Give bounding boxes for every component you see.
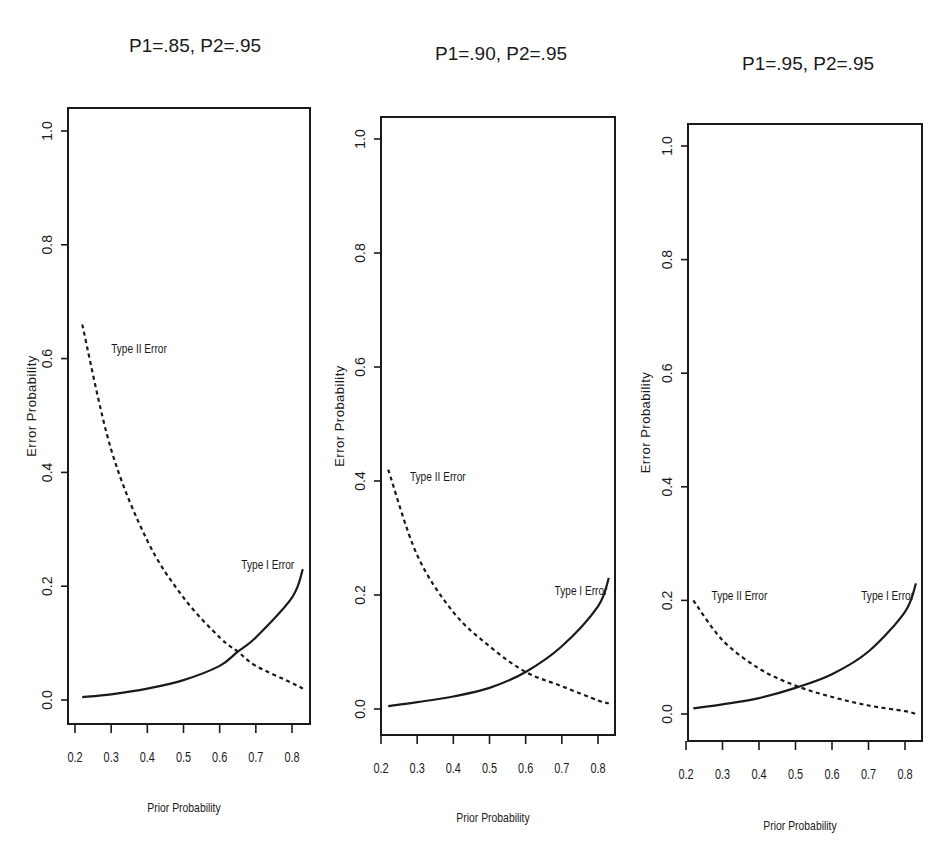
- type-ii-error-curve: [82, 324, 303, 688]
- plot-frame: [68, 108, 310, 724]
- plot-frame: [381, 117, 615, 735]
- x-tick-label: 0.3: [104, 750, 119, 766]
- type-i-error-label: Type I Error: [861, 588, 914, 602]
- y-tick-label: 0.6: [39, 349, 55, 369]
- y-tick-label: 0.2: [352, 585, 368, 605]
- y-tick-label: 0.0: [659, 704, 675, 724]
- type-ii-error-label: Type II Error: [712, 588, 768, 602]
- x-tick-label: 0.2: [67, 750, 82, 766]
- x-tick-label: 0.8: [284, 750, 299, 766]
- x-tick-label: 0.7: [554, 761, 569, 777]
- y-tick-label: 0.6: [659, 363, 675, 383]
- plot-frame: [688, 124, 922, 741]
- x-tick-label: 0.2: [373, 761, 388, 777]
- x-axis-label: Prior Probability: [147, 800, 220, 814]
- x-tick-label: 0.4: [446, 761, 461, 777]
- type-i-error-label: Type I Error: [555, 583, 608, 597]
- y-tick-label: 0.8: [659, 250, 675, 270]
- y-tick-label: 0.8: [352, 243, 368, 263]
- x-tick-label: 0.6: [518, 761, 533, 777]
- chart-figure: P1=.85, P2=.950.00.20.40.60.81.00.20.30.…: [0, 0, 943, 858]
- three-panel-error-probability-chart: P1=.85, P2=.950.00.20.40.60.81.00.20.30.…: [0, 0, 943, 858]
- x-tick-label: 0.7: [248, 750, 263, 766]
- y-tick-label: 0.8: [39, 235, 55, 255]
- x-tick-label: 0.6: [824, 767, 839, 783]
- y-tick-label: 1.0: [39, 121, 55, 141]
- y-axis-label: Error Probability: [638, 372, 653, 474]
- type-i-error-label: Type I Error: [241, 557, 294, 571]
- x-tick-label: 0.3: [715, 767, 730, 783]
- type-ii-error-curve: [693, 600, 916, 714]
- y-tick-label: 0.0: [39, 690, 55, 710]
- x-tick-label: 0.7: [861, 767, 876, 783]
- chart-panel-2: P1=.90, P2=.950.00.20.40.60.81.00.20.30.…: [332, 43, 615, 824]
- x-axis-label: Prior Probability: [763, 818, 836, 832]
- x-tick-label: 0.6: [212, 750, 227, 766]
- y-tick-label: 0.4: [659, 477, 675, 497]
- x-tick-label: 0.3: [410, 761, 425, 777]
- y-tick-label: 0.4: [352, 471, 368, 491]
- y-axis-label: Error Probability: [332, 365, 347, 467]
- x-tick-label: 0.4: [751, 767, 766, 783]
- chart-panel-1: P1=.85, P2=.950.00.20.40.60.81.00.20.30.…: [24, 35, 310, 814]
- type-ii-error-label: Type II Error: [410, 469, 466, 483]
- y-tick-label: 0.2: [39, 576, 55, 596]
- y-tick-label: 0.2: [659, 590, 675, 610]
- y-tick-label: 0.4: [39, 462, 55, 482]
- panel-title: P1=.90, P2=.95: [435, 43, 567, 64]
- x-axis-label: Prior Probability: [456, 810, 529, 824]
- y-tick-label: 0.6: [352, 357, 368, 377]
- chart-panel-3: P1=.95, P2=.950.00.20.40.60.81.00.20.30.…: [638, 53, 922, 832]
- type-i-error-curve: [82, 569, 303, 697]
- x-tick-label: 0.4: [140, 750, 155, 766]
- y-tick-label: 1.0: [659, 136, 675, 156]
- y-tick-label: 1.0: [352, 129, 368, 149]
- x-tick-label: 0.5: [176, 750, 191, 766]
- x-tick-label: 0.2: [678, 767, 693, 783]
- type-ii-error-label: Type II Error: [111, 341, 167, 355]
- panel-title: P1=.95, P2=.95: [742, 53, 874, 74]
- x-tick-label: 0.5: [788, 767, 803, 783]
- y-axis-label: Error Probability: [24, 355, 39, 457]
- x-tick-label: 0.8: [590, 761, 605, 777]
- x-tick-label: 0.5: [482, 761, 497, 777]
- panel-title: P1=.85, P2=.95: [129, 35, 261, 56]
- y-tick-label: 0.0: [352, 699, 368, 719]
- x-tick-label: 0.8: [897, 767, 912, 783]
